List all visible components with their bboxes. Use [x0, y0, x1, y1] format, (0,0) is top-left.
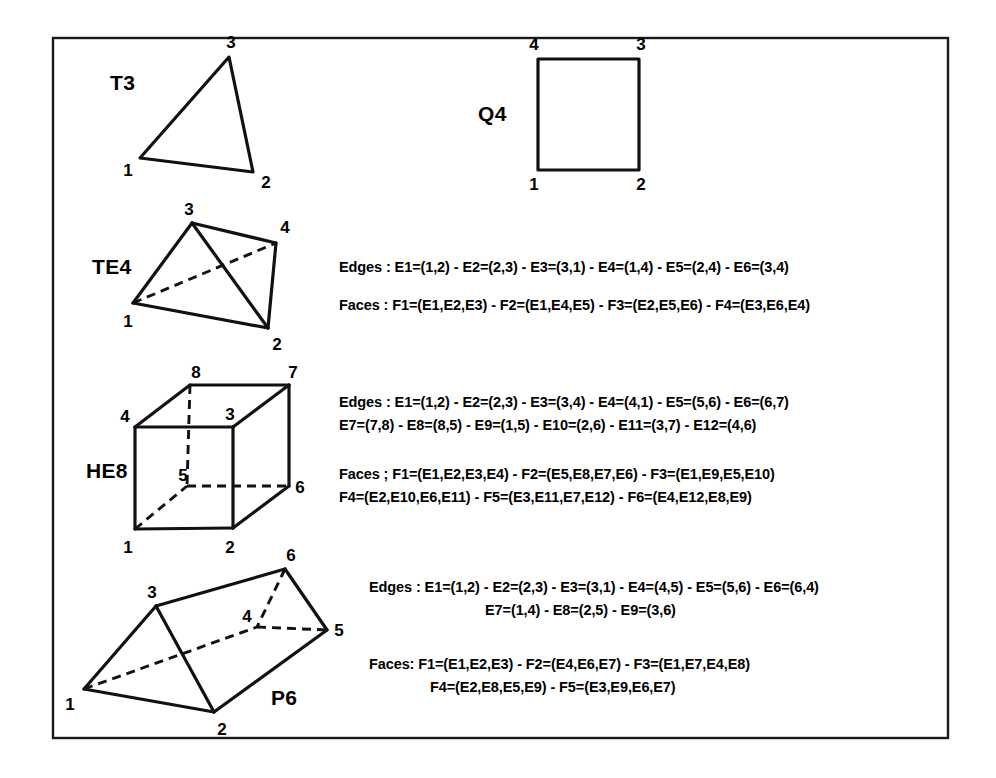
he8-node-label-5: 5: [178, 466, 187, 485]
he8-node-label-7: 7: [288, 363, 297, 382]
te4-element-label: TE4: [92, 255, 131, 278]
p6-node-label-6: 6: [286, 546, 295, 565]
t3-node-label-1: 1: [123, 161, 132, 180]
element-group-p6: 1 2 3 4 5 6 P6 Edges : E1=(1,2) - E2=(2,…: [65, 546, 819, 739]
p6-node-label-3: 3: [147, 583, 156, 602]
he8-edge-2-6: [233, 486, 289, 528]
he8-topology-line-faces-2: F4=(E2,E10,E6,E11) - F5=(E3,E11,E7,E12) …: [339, 489, 752, 505]
p6-edge-6-4-hidden: [257, 569, 285, 627]
q4-node-label-3: 3: [636, 35, 645, 54]
p6-edge-4-5-hidden: [257, 627, 327, 630]
te4-node-label-2: 2: [272, 335, 281, 354]
p6-edge-5-6: [285, 569, 327, 630]
p6-edge-2-3: [156, 606, 214, 712]
element-group-he8: 1 2 3 4 5 6 7 8 HE8 Edges : E1=(1,2) - E…: [86, 363, 789, 557]
he8-node-label-6: 6: [295, 478, 304, 497]
element-group-q4: 1 2 3 4 Q4: [478, 35, 646, 194]
element-group-t3: 1 2 3 T3: [110, 33, 271, 192]
he8-element-label: HE8: [86, 459, 128, 482]
p6-topology-line-edges-1: Edges : E1=(1,2) - E2=(2,3) - E3=(3,1) -…: [369, 579, 819, 595]
p6-edge-1-2: [84, 689, 214, 712]
p6-node-label-4: 4: [242, 607, 252, 626]
he8-node-label-4: 4: [120, 407, 130, 426]
te4-topology-line-edges: Edges : E1=(1,2) - E2=(2,3) - E3=(3,1) -…: [339, 259, 789, 275]
p6-topology-line-faces-1: Faces: F1=(E1,E2,E3) - F2=(E4,E6,E7) - F…: [369, 656, 750, 672]
te4-node-label-3: 3: [184, 200, 193, 219]
he8-topology-line-edges-1: Edges : E1=(1,2) - E2=(2,3) - E3=(3,4) -…: [339, 394, 789, 410]
te4-edge-4-2: [268, 243, 276, 328]
element-topology-diagram: 1 2 3 T3 1 2 3 4 Q4 1 2 3: [0, 0, 996, 778]
te4-edge-2-1: [133, 303, 268, 328]
te4-topology-line-faces: Faces : F1=(E1,E2,E3) - F2=(E1,E4,E5) - …: [339, 297, 810, 313]
he8-topology-line-edges-2: E7=(7,8) - E8=(8,5) - E9=(1,5) - E10=(2,…: [339, 417, 757, 433]
he8-edge-1-2: [135, 528, 233, 529]
p6-node-label-2: 2: [217, 720, 226, 739]
p6-topology-line-faces-2: F4=(E2,E8,E5,E9) - F5=(E3,E9,E6,E7): [430, 679, 676, 695]
he8-edge-4-8: [135, 385, 190, 427]
he8-node-label-3: 3: [225, 405, 234, 424]
p6-element-label: P6: [271, 686, 297, 709]
he8-node-label-1: 1: [123, 538, 132, 557]
he8-edge-3-7: [233, 385, 289, 427]
he8-edge-1-5-hidden: [135, 486, 187, 529]
he8-node-label-8: 8: [191, 363, 200, 382]
t3-node-label-3: 3: [226, 33, 235, 52]
q4-node-label-1: 1: [529, 175, 538, 194]
figure-root: 1 2 3 T3 1 2 3 4 Q4 1 2 3: [0, 0, 996, 778]
p6-topology-line-edges-2: E7=(1,4) - E8=(2,5) - E9=(3,6): [485, 602, 676, 618]
te4-node-label-4: 4: [280, 218, 290, 237]
he8-topology-line-faces-1: Faces ; F1=(E1,E2,E3,E4) - F2=(E5,E8,E7,…: [339, 466, 775, 482]
element-group-te4: 1 2 3 4 TE4 Edges : E1=(1,2) - E2=(2,3) …: [92, 200, 810, 354]
q4-node-label-2: 2: [636, 175, 645, 194]
t3-node-label-2: 2: [261, 173, 270, 192]
p6-node-label-1: 1: [65, 695, 74, 714]
q4-element-label: Q4: [478, 102, 507, 125]
q4-square-outline: [538, 59, 639, 170]
he8-node-label-2: 2: [225, 538, 234, 557]
q4-node-label-4: 4: [529, 35, 539, 54]
p6-edge-3-6: [156, 569, 285, 606]
te4-node-label-1: 1: [123, 312, 132, 331]
p6-node-label-5: 5: [334, 621, 343, 640]
t3-triangle-outline: [140, 57, 253, 172]
t3-element-label: T3: [110, 71, 135, 94]
